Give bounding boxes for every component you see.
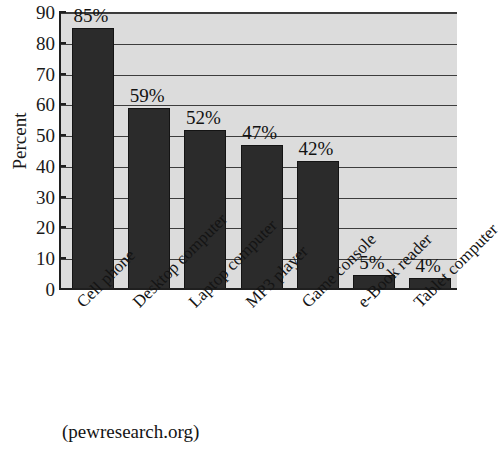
bar-value-label: 85% [56,6,126,25]
y-axis-tick-label: 40 [0,156,55,175]
gridline [61,75,457,76]
y-axis-tick-label: 90 [0,3,55,22]
y-axis-tick-mark [59,196,66,198]
gridline [61,44,457,45]
gridline [61,105,457,106]
y-axis-tick-label: 10 [0,249,55,268]
y-axis-tick-mark [59,226,66,228]
y-axis-tick-mark [59,165,66,167]
source-note: (pewresearch.org) [62,421,199,443]
y-axis-tick-mark [59,42,66,44]
y-axis-tick-label: 20 [0,218,55,237]
y-axis-tick-mark [59,73,66,75]
y-axis-tick-mark [59,134,66,136]
y-axis-tick-label: 80 [0,33,55,52]
bar-value-label: 42% [281,139,351,158]
y-axis-tick-label: 0 [0,280,55,299]
y-axis-tick-label: 70 [0,64,55,83]
y-axis-tick-mark [59,288,66,290]
bar-value-label: 59% [112,86,182,105]
y-axis-tick-label: 60 [0,95,55,114]
y-axis-tick-mark [59,257,66,259]
y-axis-tick-label: 30 [0,187,55,206]
y-axis-tick-label: 50 [0,126,55,145]
bar [72,28,114,290]
y-axis-tick-mark [59,103,66,105]
